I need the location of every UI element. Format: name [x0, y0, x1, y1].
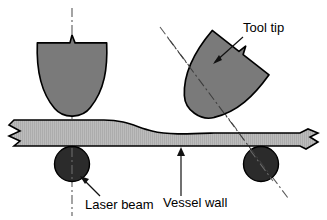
centerline-group	[72, 8, 288, 216]
label-tool-tip: Tool tip	[243, 20, 284, 35]
laser-spot-group	[55, 147, 279, 182]
laser-tool-vessel-diagram: Tool tip Laser beam Vessel wall	[0, 0, 327, 220]
vessel-wall	[9, 120, 318, 149]
diagram-canvas: Tool tip Laser beam Vessel wall	[0, 0, 327, 220]
tool-tip-right	[165, 24, 274, 135]
tool-tip-left	[37, 35, 107, 116]
label-vessel-wall: Vessel wall	[163, 195, 227, 210]
label-laser-beam: Laser beam	[85, 197, 154, 212]
arrowhead-vessel-wall	[177, 147, 185, 156]
